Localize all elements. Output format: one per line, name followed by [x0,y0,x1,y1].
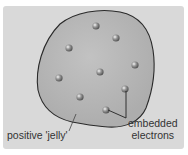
electron-icon [76,93,83,100]
electron-icon [92,22,99,29]
label-embedded-line1: embedded [128,117,178,129]
electron-icon [55,74,62,81]
label-embedded-electrons: embedded electrons [128,117,178,141]
electron-icon [121,85,128,92]
label-embedded-line2: electrons [128,129,178,141]
electron-icon [65,44,72,51]
electron-icon [112,34,119,41]
electron-icon [96,68,103,75]
electron-icon [131,61,138,68]
label-positive-jelly: positive 'jelly' [7,129,68,141]
